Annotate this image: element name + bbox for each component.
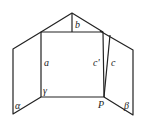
label-P: P — [97, 99, 104, 110]
edge-c — [104, 35, 110, 97]
label-c: c — [111, 57, 116, 68]
label-c-prime: c' — [93, 57, 100, 68]
label-alpha: α — [15, 100, 21, 111]
label-beta: β — [123, 100, 129, 111]
label-gamma: γ — [43, 85, 48, 96]
label-a: a — [44, 57, 49, 68]
label-b: b — [75, 19, 80, 30]
geometry-diagram: b a c' c γ P α β — [0, 0, 149, 128]
